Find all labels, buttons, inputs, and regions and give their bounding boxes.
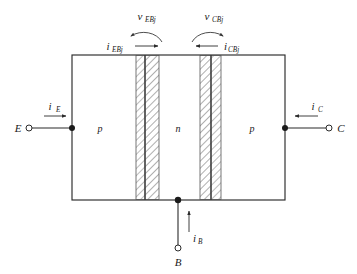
collector-lead-group: C i C bbox=[282, 100, 345, 134]
bjt-diagram-canvas: p n p E i E C i C B i B v EBj i EBj bbox=[0, 0, 357, 274]
emitter-terminal-label: E bbox=[14, 122, 22, 134]
emitter-current-subscript: E bbox=[55, 106, 61, 114]
collector-terminal-node[interactable] bbox=[326, 125, 332, 131]
emitter-terminal-node[interactable] bbox=[26, 125, 32, 131]
collector-current-symbol: i bbox=[311, 100, 314, 112]
collector-contact-dot bbox=[282, 125, 288, 131]
cbj-current-subscript: CBj bbox=[228, 46, 239, 54]
ebj-voltage-arc bbox=[131, 32, 162, 42]
region-label-collector: p bbox=[249, 123, 255, 134]
ebj-annotation-group: v EBj i EBj bbox=[106, 10, 162, 54]
base-current-subscript: B bbox=[198, 238, 203, 246]
ebj-voltage-subscript: EBj bbox=[144, 16, 156, 24]
cbj-voltage-symbol: v bbox=[205, 10, 210, 22]
cbj-voltage-arc bbox=[192, 32, 223, 42]
emitter-contact-dot bbox=[69, 125, 75, 131]
collector-terminal-label: C bbox=[337, 122, 345, 134]
cbj-annotation-group: v CBj i CBj bbox=[192, 10, 239, 54]
ebj-depletion-left-band bbox=[136, 56, 145, 200]
base-terminal-label: B bbox=[175, 256, 182, 268]
base-terminal-node[interactable] bbox=[175, 245, 181, 251]
cbj-voltage-subscript: CBj bbox=[212, 16, 223, 24]
ebj-depletion-right-band bbox=[145, 56, 159, 200]
region-label-emitter: p bbox=[97, 123, 103, 134]
emitter-lead-group: E i E bbox=[14, 100, 75, 134]
bjt-cross-section-diagram: p n p E i E C i C B i B v EBj i EBj bbox=[0, 0, 357, 274]
region-label-base: n bbox=[176, 123, 181, 134]
collector-current-subscript: C bbox=[318, 106, 323, 114]
base-contact-dot bbox=[175, 197, 181, 203]
emitter-current-symbol: i bbox=[48, 100, 51, 112]
cbj-depletion-right-band bbox=[211, 56, 221, 200]
base-lead-group: B i B bbox=[175, 197, 203, 268]
ebj-current-subscript: EBj bbox=[111, 46, 123, 54]
emitter-base-junction-depletion bbox=[136, 55, 159, 200]
cbj-current-symbol: i bbox=[224, 40, 227, 52]
ebj-voltage-symbol: v bbox=[138, 10, 143, 22]
collector-base-junction-depletion bbox=[200, 55, 221, 200]
base-current-symbol: i bbox=[193, 232, 196, 244]
cbj-depletion-left-band bbox=[200, 56, 211, 200]
ebj-current-symbol: i bbox=[106, 40, 109, 52]
